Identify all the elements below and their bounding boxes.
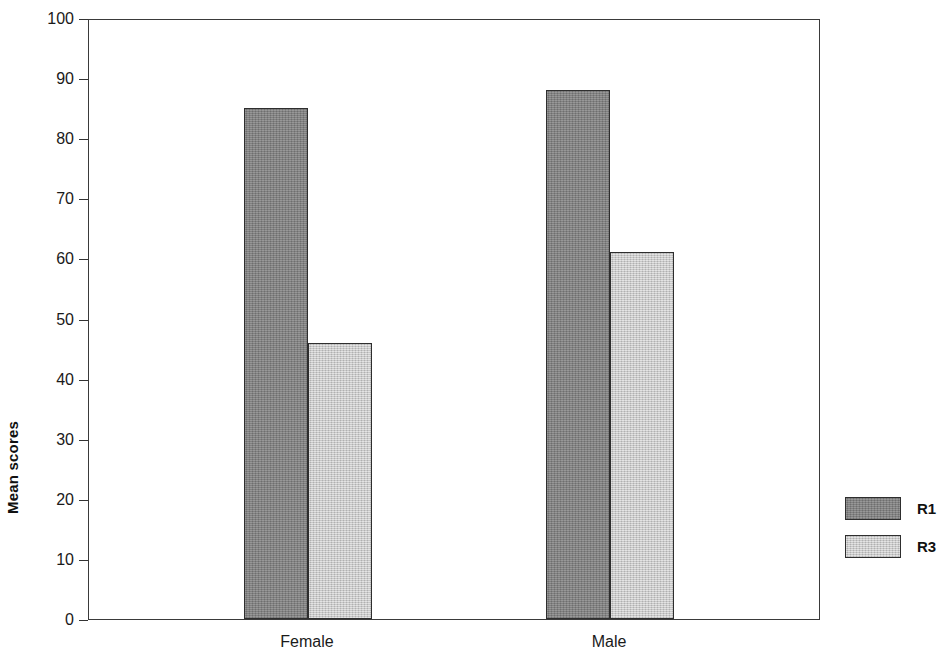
y-axis-tick-label: 40 — [56, 369, 74, 391]
y-axis-tick-label: 50 — [56, 309, 74, 331]
y-axis-tick-label: 80 — [56, 128, 74, 150]
y-axis-tick-label: 30 — [56, 429, 74, 451]
y-axis-tick-mark — [79, 199, 88, 200]
y-axis-tick-label: 100 — [47, 8, 74, 30]
x-axis-category-label: Male — [539, 632, 679, 652]
bar-r3-female — [308, 343, 372, 619]
legend-item: R3 — [845, 535, 945, 565]
y-axis-tick-mark — [79, 500, 88, 501]
legend-swatch-r3 — [845, 535, 901, 558]
y-axis-tick-mark — [79, 320, 88, 321]
y-axis-tick-mark — [79, 380, 88, 381]
y-axis-tick-mark — [79, 560, 88, 561]
x-axis-category-label: Female — [237, 632, 377, 652]
bar-r3-male — [610, 252, 674, 619]
legend-label: R1 — [917, 499, 936, 519]
bar-r1-female — [244, 108, 308, 619]
y-axis-tick-mark — [79, 620, 88, 621]
y-axis-tick-label: 90 — [56, 68, 74, 90]
legend-swatch-r1 — [845, 497, 901, 520]
bar-r1-male — [546, 90, 610, 619]
plot-area — [88, 19, 820, 620]
legend: R1R3 — [845, 497, 945, 573]
y-axis-tick-label: 0 — [65, 609, 74, 631]
y-axis-tick-mark — [79, 259, 88, 260]
legend-item: R1 — [845, 497, 945, 527]
y-axis-tick-mark — [79, 79, 88, 80]
y-axis-tick-label: 60 — [56, 248, 74, 270]
y-axis-tick-mark — [79, 139, 88, 140]
bar-chart: Mean scores 1009080706050403020100 Femal… — [0, 0, 948, 663]
y-axis-tick-mark — [79, 19, 88, 20]
y-axis-tick-mark — [79, 440, 88, 441]
y-axis: 1009080706050403020100 — [0, 0, 88, 663]
y-axis-tick-label: 20 — [56, 489, 74, 511]
y-axis-tick-label: 10 — [56, 549, 74, 571]
legend-label: R3 — [917, 537, 936, 557]
bars-layer — [89, 20, 819, 619]
y-axis-tick-label: 70 — [56, 188, 74, 210]
